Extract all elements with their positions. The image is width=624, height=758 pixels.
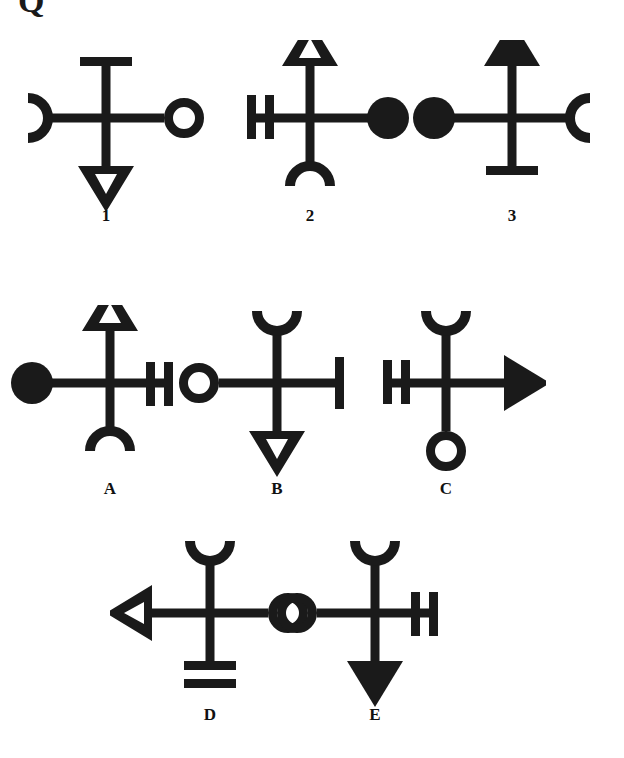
sequence-label: 1 [6,207,206,224]
symbol-glyph-2 [210,40,410,215]
cross-arm-up [206,561,215,613]
filled-triangle-glyph [347,661,403,707]
cross-arm-down [206,613,215,661]
bar-glyph [80,57,132,66]
sequence-item-3: 3 [412,40,612,215]
terminal-up-arc-open [426,311,466,331]
cross-arm-right [210,609,268,618]
open-triangle-glyph [82,305,138,331]
double-bar-near [401,360,410,404]
disc-glyph [413,97,455,139]
sequence-item-1: 1 [6,40,206,215]
terminal-up-arc-open [355,541,395,561]
filled-triangle-glyph [484,40,540,66]
terminal-down-bar [486,166,538,175]
cross-arm-right [310,114,368,123]
stacked-bar-1 [184,661,236,670]
sequence-label: 3 [412,207,612,224]
terminal-left-disc [413,97,455,139]
open-arc-glyph [290,166,330,186]
cross-arm-left [388,379,446,388]
cross-arm-left [454,114,512,123]
double-bar-near [411,592,420,636]
terminal-down-arc-open [290,166,330,186]
sequence-label: 2 [210,207,410,224]
open-arc-glyph [190,541,230,561]
cross-arm-right [110,379,168,388]
disc-glyph [11,362,53,404]
terminal-left-arc-open [28,98,48,138]
symbol-glyph-1 [6,40,206,215]
cross-arm-right [106,114,164,123]
cross-arm-down [306,118,315,166]
cross-arm-down [371,613,380,661]
answer-option-item-c[interactable]: C [346,305,546,480]
terminal-left-disc [11,362,53,404]
double-bar-far [383,360,392,404]
question-number-mark: Q [18,0,44,18]
symbol-glyph-3 [412,40,612,215]
cross-arm-down [442,383,451,431]
double-bar-far [429,592,438,636]
terminal-right-ring [169,103,200,134]
cross-arm-down [508,118,517,166]
terminal-up-bar [80,57,132,66]
open-arc-glyph [355,541,395,561]
bar-glyph [335,357,344,409]
open-arc-glyph [257,311,297,331]
cross-arm-down [102,118,111,166]
double-bar-far [164,362,173,406]
filled-triangle-glyph [504,355,546,411]
cross-arm-down [106,383,115,431]
open-arc-glyph [90,431,130,451]
ring-glyph [282,598,313,629]
open-triangle-glyph [110,585,152,641]
open-triangle-glyph [249,431,305,477]
bar-glyph [486,166,538,175]
ring-glyph [431,436,462,467]
terminal-left-ring [282,598,313,629]
cross-arm-up [273,331,282,383]
terminal-up-triangle-open [82,305,138,331]
answer-option-item-e[interactable]: E [275,535,475,710]
cross-arm-right [446,379,504,388]
terminal-down-ring [431,436,462,467]
cross-arm-left [52,379,110,388]
terminal-down-triangle-filled [347,661,403,707]
terminal-right-disc [367,97,409,139]
terminal-up-triangle-filled [484,40,540,66]
disc-glyph [367,97,409,139]
terminal-right-bar [335,357,344,409]
terminal-down-triangle-open [249,431,305,477]
worksheet-page: Q 123 ABCDE [0,0,624,758]
stacked-bar-2 [184,679,236,688]
terminal-up-triangle-open [282,40,338,66]
cross-body [152,561,268,661]
cross-body [219,331,335,431]
cross-arm-up [371,561,380,613]
cross-arm-left [317,609,375,618]
cross-arm-right [375,609,433,618]
answer-option-label: E [275,706,475,723]
symbol-glyph-c [346,305,546,480]
cross-arm-left [152,609,210,618]
double-bar-near [265,95,274,139]
open-arc-glyph [570,98,590,138]
cross-body [48,66,164,166]
cross-arm-up [306,66,315,118]
ring-glyph [184,368,215,399]
cross-arm-right [512,114,570,123]
cross-body [454,66,570,166]
open-arc-glyph [28,98,48,138]
double-bar-far [247,95,256,139]
terminal-left-triangle-open [110,585,152,641]
cross-arm-up [442,331,451,383]
cross-arm-left [252,114,310,123]
symbol-glyph-e [275,535,475,710]
open-triangle-glyph [282,40,338,66]
cross-arm-up [508,66,517,118]
answer-option-label: C [346,480,546,497]
cross-arm-left [219,379,277,388]
double-bar-near [146,362,155,406]
terminal-left-ring [184,368,215,399]
